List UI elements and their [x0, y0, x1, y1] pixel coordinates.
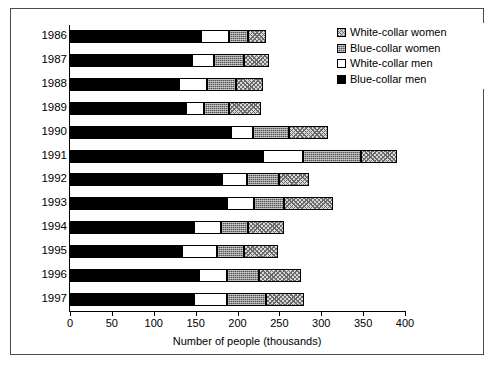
x-axis-tick — [321, 312, 322, 316]
bar-segment — [231, 126, 253, 139]
bar-segment — [253, 126, 290, 139]
bar-segment — [221, 221, 248, 234]
bar-segment — [361, 150, 396, 163]
y-axis-tick-label: 1995 — [25, 244, 67, 256]
bar-segment — [70, 173, 222, 186]
bar-segment — [70, 245, 182, 258]
bar-segment — [70, 269, 199, 282]
x-axis-tick-label: 100 — [134, 317, 174, 329]
x-axis-tick-label: 0 — [50, 317, 90, 329]
y-axis-tick-label: 1990 — [25, 125, 67, 137]
y-axis-tick-label: 1986 — [25, 29, 67, 41]
bar-segment — [194, 293, 228, 306]
legend-item[interactable]: White-collar men — [337, 56, 487, 72]
bar-segment — [263, 150, 303, 163]
x-axis-title: Number of people (thousands) — [11, 335, 483, 347]
y-axis-tick-label: 1996 — [25, 268, 67, 280]
x-axis-tick — [70, 312, 71, 316]
bar-segment — [70, 221, 194, 234]
bar-segment — [248, 221, 285, 234]
bar-segment — [70, 54, 192, 67]
chart-page: 1986198719881989199019911992199319941995… — [0, 0, 495, 376]
x-axis-tick — [154, 312, 155, 316]
x-axis-tick — [238, 312, 239, 316]
legend-swatch-icon — [337, 75, 346, 84]
legend-swatch-icon — [337, 44, 346, 53]
bar-segment — [194, 221, 221, 234]
bar-segment — [229, 102, 261, 115]
bar-segment — [70, 78, 179, 91]
bar-segment — [214, 54, 244, 67]
bar-segment — [303, 150, 362, 163]
bar-segment — [192, 54, 214, 67]
bar-segment — [217, 245, 244, 258]
bar-segment — [70, 30, 201, 43]
y-axis-tick-label: 1988 — [25, 77, 67, 89]
legend-item-label: Blue-collar women — [350, 41, 440, 57]
x-axis-tick-label: 50 — [92, 317, 132, 329]
y-axis-tick-label: 1992 — [25, 172, 67, 184]
x-axis-tick-label: 350 — [343, 317, 383, 329]
bar-segment — [70, 197, 227, 210]
bar-segment — [186, 102, 204, 115]
x-axis-tick — [196, 312, 197, 316]
bar-segment — [244, 54, 269, 67]
bar-segment — [179, 78, 207, 91]
legend-item[interactable]: White-collar women — [337, 25, 487, 41]
y-axis-tick-label: 1993 — [25, 196, 67, 208]
bar-segment — [222, 173, 247, 186]
legend-swatch-icon — [337, 28, 346, 37]
bar-segment — [70, 150, 263, 163]
bar-segment — [201, 30, 229, 43]
bar-segment — [199, 269, 227, 282]
legend-item-label: White-collar women — [350, 25, 447, 41]
bar-segment — [248, 30, 266, 43]
x-axis-tick — [112, 312, 113, 316]
y-axis-tick-label: 1989 — [25, 101, 67, 113]
x-axis-tick-label: 200 — [218, 317, 258, 329]
x-axis-tick-label: 250 — [259, 317, 299, 329]
bar-segment — [289, 126, 328, 139]
bar-segment — [207, 78, 235, 91]
y-axis-tick-label: 1991 — [25, 149, 67, 161]
legend-item-label: Blue-collar men — [350, 72, 426, 88]
bar-segment — [266, 293, 305, 306]
legend-item[interactable]: Blue-collar men — [337, 72, 487, 88]
bar-segment — [229, 30, 247, 43]
bar-segment — [236, 78, 263, 91]
bar-segment — [244, 245, 278, 258]
legend-item-label: White-collar men — [350, 56, 433, 72]
y-axis-tick-label: 1987 — [25, 53, 67, 65]
bar-segment — [259, 269, 301, 282]
x-axis-tick-label: 150 — [176, 317, 216, 329]
bar-segment — [227, 197, 254, 210]
bar-segment — [247, 173, 279, 186]
chart-legend: White-collar womenBlue-collar womenWhite… — [335, 23, 487, 89]
y-axis-tick-label: 1994 — [25, 220, 67, 232]
x-axis-tick-label: 300 — [301, 317, 341, 329]
chart-frame: 1986198719881989199019911992199319941995… — [10, 8, 484, 355]
bar-segment — [227, 293, 266, 306]
x-axis-tick — [279, 312, 280, 316]
y-axis-tick-label: 1997 — [25, 292, 67, 304]
x-axis-tick — [405, 312, 406, 316]
bar-segment — [227, 269, 259, 282]
legend-item[interactable]: Blue-collar women — [337, 41, 487, 57]
legend-swatch-icon — [337, 59, 346, 68]
bar-segment — [279, 173, 309, 186]
bar-segment — [182, 245, 217, 258]
bar-segment — [284, 197, 333, 210]
bar-segment — [254, 197, 284, 210]
bar-segment — [204, 102, 229, 115]
bar-segment — [70, 293, 194, 306]
bar-segment — [70, 126, 231, 139]
x-axis-tick — [363, 312, 364, 316]
bar-segment — [70, 102, 186, 115]
x-axis-tick-label: 400 — [385, 317, 425, 329]
